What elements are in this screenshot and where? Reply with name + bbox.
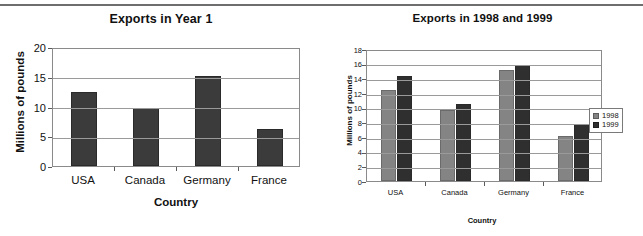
x-tick-label: Canada: [114, 174, 176, 186]
y-tick-label: 14: [346, 75, 362, 84]
chart-exports-1998-1999: Exports in 1998 and 1999 Millions of pou…: [322, 0, 643, 236]
y-tick-label: 0: [346, 178, 362, 187]
bar: [456, 104, 471, 181]
bar: [499, 70, 514, 181]
gridline: [367, 95, 601, 96]
x-tick-mark: [484, 182, 485, 186]
bar: [558, 136, 573, 181]
y-tick-mark: [48, 48, 52, 49]
bar: [195, 76, 221, 166]
y-tick-label: 2: [346, 163, 362, 172]
gridline: [367, 168, 601, 169]
x-tick-mark: [176, 167, 177, 171]
y-tick-mark: [362, 94, 366, 95]
x-tick-label: Germany: [484, 188, 543, 197]
gridline: [53, 78, 299, 79]
legend-right: 1998 1999: [589, 108, 623, 133]
y-tick-mark: [48, 108, 52, 109]
legend-swatch-icon-1999: [593, 122, 599, 128]
y-tick-mark: [362, 79, 366, 80]
y-tick-label: 4: [346, 148, 362, 157]
x-tick-mark: [425, 182, 426, 186]
y-tick-mark: [362, 123, 366, 124]
legend-swatch-icon-1998: [593, 113, 599, 119]
x-tick-mark: [114, 167, 115, 171]
gridline: [367, 80, 601, 81]
x-tick-label: France: [238, 174, 300, 186]
plot-area-left: [52, 48, 300, 167]
x-tick-label: Germany: [176, 174, 238, 186]
chart-title-right: Exports in 1998 and 1999: [322, 12, 643, 24]
legend-label-1998: 1998: [602, 111, 619, 120]
x-tick-label: Canada: [425, 188, 484, 197]
x-tick-label: USA: [52, 174, 114, 186]
x-tick-label: France: [543, 188, 602, 197]
gridline: [367, 109, 601, 110]
chart-exports-year-1: Exports in Year 1 Millions of pounds 051…: [0, 0, 322, 236]
y-tick-mark: [48, 167, 52, 168]
gridline: [367, 124, 601, 125]
y-tick-label: 0: [24, 161, 46, 173]
gridline: [367, 139, 601, 140]
legend-item-1999[interactable]: 1999: [593, 120, 619, 129]
chart-title-left: Exports in Year 1: [0, 12, 322, 26]
bar: [440, 110, 455, 181]
gridline: [53, 108, 299, 109]
y-tick-label: 18: [346, 46, 362, 55]
gridline: [367, 65, 601, 66]
bar: [71, 92, 97, 166]
bar: [257, 129, 283, 166]
plot-area-right: [366, 50, 602, 182]
y-tick-mark: [362, 50, 366, 51]
x-tick-mark: [238, 167, 239, 171]
y-tick-mark: [362, 167, 366, 168]
y-tick-label: 5: [24, 131, 46, 143]
y-tick-label: 16: [346, 60, 362, 69]
y-tick-mark: [48, 78, 52, 79]
x-axis-label-left: Country: [52, 196, 300, 208]
y-tick-mark: [362, 109, 366, 110]
y-tick-mark: [362, 65, 366, 66]
y-tick-mark: [362, 138, 366, 139]
y-tick-label: 20: [24, 42, 46, 54]
y-tick-label: 6: [346, 134, 362, 143]
x-tick-label: USA: [366, 188, 425, 197]
gridline: [53, 138, 299, 139]
legend-label-1999: 1999: [602, 120, 619, 129]
bar: [397, 76, 412, 181]
y-tick-label: 8: [346, 119, 362, 128]
y-tick-label: 15: [24, 72, 46, 84]
bar-series-right: [367, 51, 601, 181]
gridline: [367, 153, 601, 154]
y-tick-mark: [48, 137, 52, 138]
x-axis-label-right: Country: [362, 216, 602, 225]
y-tick-mark: [362, 153, 366, 154]
legend-item-1998[interactable]: 1998: [593, 111, 619, 120]
y-tick-label: 10: [24, 102, 46, 114]
x-tick-mark: [543, 182, 544, 186]
y-tick-label: 12: [346, 90, 362, 99]
y-tick-mark: [362, 182, 366, 183]
y-tick-label: 10: [346, 104, 362, 113]
